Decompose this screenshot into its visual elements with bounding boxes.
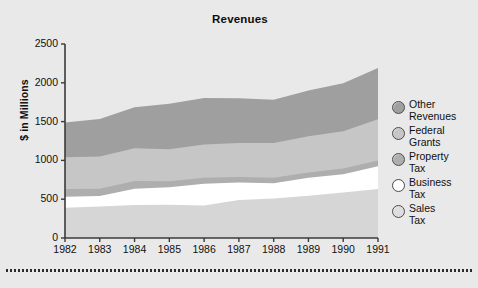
legend-label: Sales Tax <box>409 203 435 226</box>
legend-label: Other Revenues <box>409 99 456 122</box>
circle-marker-icon <box>392 127 405 140</box>
legend-item[interactable]: Property Tax <box>392 151 478 174</box>
chart-card: Revenues $ in Millions 05001000150020002… <box>0 0 478 262</box>
revenues-figure: Revenues $ in Millions 05001000150020002… <box>0 0 478 288</box>
legend-item[interactable]: Other Revenues <box>392 99 478 122</box>
legend-item[interactable]: Business Tax <box>392 177 478 200</box>
legend-item[interactable]: Federal Grants <box>392 125 478 148</box>
legend-label: Property Tax <box>409 151 449 174</box>
legend-label: Business Tax <box>409 177 452 200</box>
legend-item[interactable]: Sales Tax <box>392 203 478 226</box>
chart-legend: Other RevenuesFederal GrantsProperty Tax… <box>392 99 478 229</box>
circle-marker-icon <box>392 101 405 114</box>
circle-marker-icon <box>392 179 405 192</box>
x-tick-label: 1991 <box>358 243 398 255</box>
circle-marker-icon <box>392 205 405 218</box>
circle-marker-icon <box>392 153 405 166</box>
footer-dotted-rule <box>6 269 472 272</box>
legend-label: Federal Grants <box>409 125 445 148</box>
